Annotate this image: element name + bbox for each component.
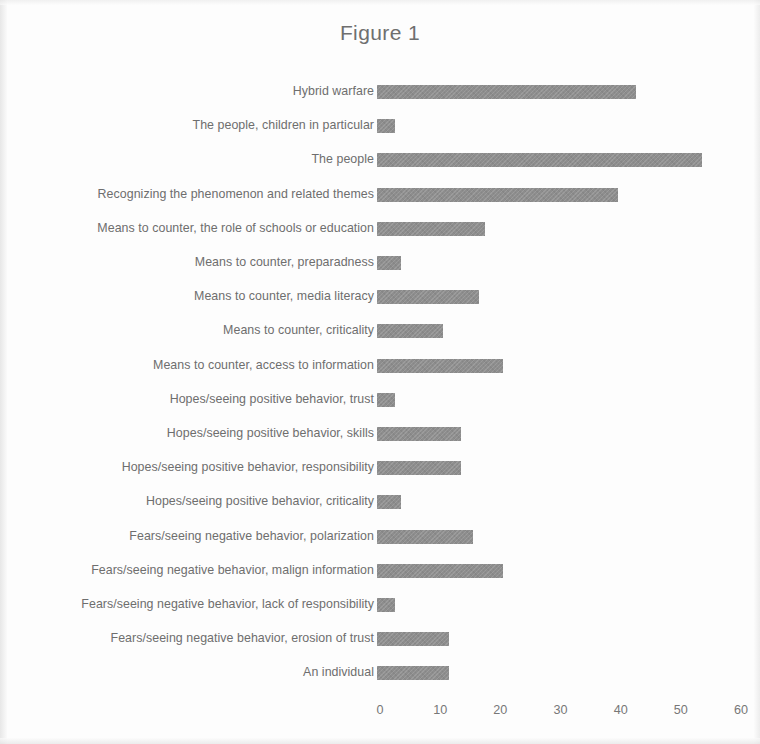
bar-row: Hybrid warfare [0,84,760,118]
x-tick-label: 30 [541,703,581,717]
bar-row: Hopes/seeing positive behavior, trust [0,392,760,426]
category-label: Hopes/seeing positive behavior, skills [14,426,374,441]
bar [377,359,503,373]
bar-row: Means to counter, access to information [0,358,760,392]
category-label: Means to counter, the role of schools or… [14,221,374,236]
bar-row: An individual [0,665,760,699]
category-label: Fears/seeing negative behavior, malign i… [14,563,374,578]
category-label: Fears/seeing negative behavior, erosion … [14,631,374,646]
category-label: Fears/seeing negative behavior, lack of … [14,597,374,612]
category-label: Means to counter, preparadness [14,255,374,270]
bar [377,256,401,270]
bar-row: Fears/seeing negative behavior, erosion … [0,631,760,665]
bar-row: Fears/seeing negative behavior, malign i… [0,563,760,597]
bar [377,393,395,407]
category-label: Means to counter, access to information [14,358,374,373]
bar-row: Means to counter, criticality [0,323,760,357]
bar-row: Fears/seeing negative behavior, lack of … [0,597,760,631]
x-tick-label: 20 [480,703,520,717]
bar [377,188,618,202]
bar [377,85,636,99]
x-axis-tick-labels: 0102030405060 [0,703,760,727]
category-label: Hopes/seeing positive behavior, trust [14,392,374,407]
x-tick-label: 60 [721,703,760,717]
bar [377,461,461,475]
category-label: The people [14,152,374,167]
category-label: Hopes/seeing positive behavior, responsi… [14,460,374,475]
bar [377,598,395,612]
category-label: Hybrid warfare [14,84,374,99]
x-tick-label: 40 [601,703,641,717]
bar [377,222,485,236]
bar [377,495,401,509]
figure-container: Figure 1 Hybrid warfareThe people, child… [0,0,760,744]
bar-row: The people [0,152,760,186]
category-label: An individual [14,665,374,680]
category-label: Fears/seeing negative behavior, polariza… [14,529,374,544]
bar-row: Recognizing the phenomenon and related t… [0,187,760,221]
bar [377,153,702,167]
bar-row: Hopes/seeing positive behavior, responsi… [0,460,760,494]
bar-row: Means to counter, media literacy [0,289,760,323]
bar-row: Fears/seeing negative behavior, polariza… [0,529,760,563]
bar-row: Hopes/seeing positive behavior, skills [0,426,760,460]
bar [377,632,449,646]
bar [377,666,449,680]
category-label: The people, children in particular [14,118,374,133]
category-label: Recognizing the phenomenon and related t… [14,187,374,202]
category-label: Hopes/seeing positive behavior, critical… [14,494,374,509]
category-label: Means to counter, criticality [14,323,374,338]
bar-row: Means to counter, preparadness [0,255,760,289]
x-tick-label: 0 [360,703,400,717]
bar [377,530,473,544]
bar [377,290,479,304]
bar [377,427,461,441]
bar [377,564,503,578]
bar-chart-plot-area: Hybrid warfareThe people, children in pa… [0,0,760,744]
bar [377,119,395,133]
bar-row: Hopes/seeing positive behavior, critical… [0,494,760,528]
x-tick-label: 50 [661,703,701,717]
bar-row: The people, children in particular [0,118,760,152]
bar [377,324,443,338]
category-label: Means to counter, media literacy [14,289,374,304]
bar-row: Means to counter, the role of schools or… [0,221,760,255]
x-tick-label: 10 [420,703,460,717]
